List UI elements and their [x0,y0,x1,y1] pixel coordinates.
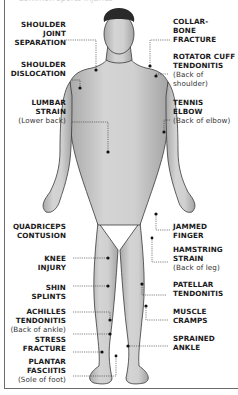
label-plantar-fasciitis: PLANTAR FASCIITIS (Sole of foot) [18,357,66,384]
label-lumbar-strain: LUMBAR STRAIN (Lower back) [18,98,66,125]
label-patellar-tendonitis: PATELLAR TENDONITIS [173,280,223,298]
label-tennis-elbow: TENNIS ELBOW (Back of elbow) [173,98,230,125]
label-quadriceps-contusion: QUADRICEPS CONTUSION [13,222,66,240]
label-knee-injury: KNEE INJURY [38,254,66,272]
label-achilles-tendonitis: ACHILLES TENDONITIS (Back of ankle) [10,307,66,334]
label-shin-splints: SHIN SPLINTS [32,283,67,301]
label-sprained-ankle: SPRAINED ANKLE [173,334,215,352]
label-rotator-cuff-tendonitis: ROTATOR CUFF TENDONITIS (Back of shoulde… [173,52,238,88]
label-muscle-cramps: MUSCLE CRAMPS [173,307,208,325]
label-collarbone-fracture: COLLAR- BONE FRACTURE [173,17,216,44]
label-shoulder-joint-separation: SHOULDER JOINT SEPARATION [15,20,67,47]
label-shoulder-dislocation: SHOULDER DISLOCATION [11,60,66,78]
label-hamstring-strain: HAMSTRING STRAIN (Back of leg) [173,245,223,272]
label-jammed-finger: JAMMED FINGER [173,222,207,240]
label-stress-fracture: STRESS FRACTURE [23,335,66,353]
